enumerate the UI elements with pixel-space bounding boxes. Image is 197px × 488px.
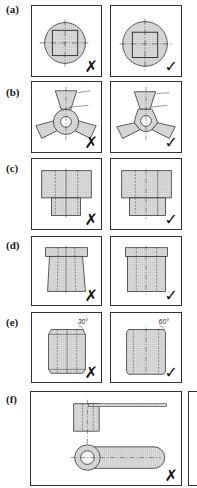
panel-f-partial bbox=[188, 391, 197, 486]
cross-icon: ✗ bbox=[85, 212, 98, 228]
panel-c-correct: ✓ bbox=[110, 158, 182, 230]
cross-icon: ✗ bbox=[165, 468, 178, 484]
panel-f-incorrect: ✗ bbox=[30, 391, 182, 486]
row-label-f: (f) bbox=[6, 393, 17, 405]
panel-b-correct: ✓ bbox=[110, 81, 182, 153]
panel-d-incorrect: ✗ bbox=[31, 236, 102, 306]
panel-c-incorrect: ✗ bbox=[31, 158, 102, 230]
cross-icon: ✗ bbox=[85, 135, 98, 151]
check-icon: ✓ bbox=[165, 212, 178, 228]
panel-e-incorrect: 30° ✗ bbox=[31, 312, 102, 383]
row-label-e: (e) bbox=[6, 316, 18, 328]
panel-d-correct: ✓ bbox=[110, 236, 182, 306]
row-label-d: (d) bbox=[6, 239, 19, 251]
cross-icon: ✗ bbox=[85, 59, 98, 75]
cross-icon: ✗ bbox=[85, 288, 98, 304]
check-icon: ✓ bbox=[165, 288, 178, 304]
angle-label: 60° bbox=[159, 318, 170, 325]
panel-e-correct: 60° ✓ bbox=[110, 312, 182, 383]
lever-arm-drawing bbox=[31, 392, 181, 485]
row-label-b: (b) bbox=[6, 86, 19, 98]
row-label-c: (c) bbox=[6, 162, 18, 174]
panel-a-correct: ✓ bbox=[110, 5, 182, 77]
panel-b-incorrect: ✗ bbox=[31, 81, 102, 153]
panel-a-incorrect: ✗ bbox=[31, 5, 102, 77]
cross-icon: ✗ bbox=[85, 365, 98, 381]
check-icon: ✓ bbox=[165, 365, 178, 381]
check-icon: ✓ bbox=[165, 135, 178, 151]
angle-label: 30° bbox=[78, 318, 89, 325]
check-icon: ✓ bbox=[165, 59, 178, 75]
row-label-a: (a) bbox=[6, 3, 19, 15]
